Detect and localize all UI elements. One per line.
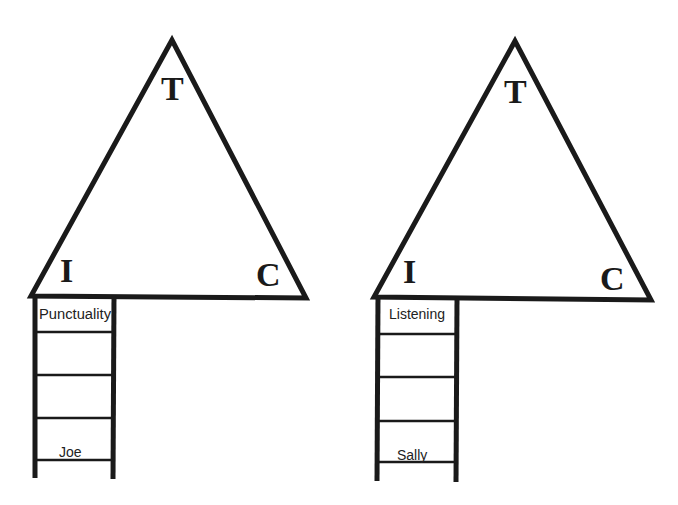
left-triangle-right-label: C bbox=[256, 256, 281, 293]
right-triangle-top-label: T bbox=[504, 73, 527, 110]
right-ladder: Listening Sally bbox=[377, 297, 457, 482]
right-ladder-top-label: Listening bbox=[389, 306, 445, 322]
tic-ladder-diagram-canvas: T I C Punctuality Joe T I C bbox=[0, 0, 678, 505]
diagram-svg: T I C Punctuality Joe T I C bbox=[0, 0, 678, 505]
left-ladder-right-rail bbox=[113, 297, 114, 479]
right-ladder-left-rail bbox=[377, 297, 378, 481]
right-diagram: T I C Listening Sally bbox=[374, 41, 651, 482]
right-ladder-bottom-label: Sally bbox=[397, 447, 427, 463]
right-ladder-right-rail bbox=[456, 299, 457, 482]
left-ladder-bottom-label: Joe bbox=[59, 444, 82, 460]
left-diagram: T I C Punctuality Joe bbox=[31, 40, 306, 479]
right-triangle-left-label: I bbox=[403, 253, 416, 290]
left-ladder: Punctuality Joe bbox=[35, 295, 114, 479]
left-triangle-top-label: T bbox=[161, 70, 184, 107]
left-triangle-left-label: I bbox=[60, 252, 73, 289]
left-ladder-top-label: Punctuality bbox=[39, 306, 111, 322]
right-triangle-right-label: C bbox=[600, 260, 625, 297]
